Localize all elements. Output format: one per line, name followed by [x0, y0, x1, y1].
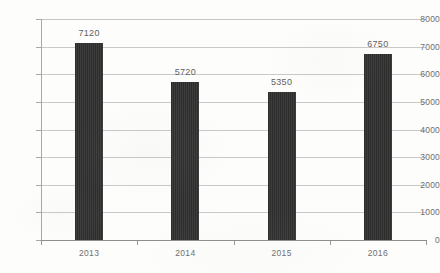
- y-axis-tick-label: 1000: [406, 208, 440, 217]
- x-axis-tick: [137, 241, 138, 245]
- y-axis-tick: [36, 157, 41, 158]
- bar-2014: [171, 82, 199, 240]
- bar-value-label-2015: 5350: [252, 78, 312, 87]
- y-axis-tick: [36, 19, 41, 20]
- gridline: [41, 19, 426, 20]
- bar-value-label-2014: 5720: [155, 68, 215, 77]
- x-axis-tick: [426, 241, 427, 245]
- y-axis-tick: [36, 102, 41, 103]
- y-axis-tick-label: 0: [406, 236, 440, 245]
- plot-area: [41, 19, 426, 240]
- x-axis-tick: [330, 241, 331, 245]
- y-axis-tick-label: 4000: [406, 126, 440, 135]
- x-axis-category-label-2015: 2015: [252, 249, 312, 258]
- y-axis-tick: [36, 47, 41, 48]
- y-axis-tick: [36, 185, 41, 186]
- bar-value-label-2016: 6750: [348, 40, 408, 49]
- bar-value-label-2013: 7120: [59, 29, 119, 38]
- bar-2016: [364, 54, 392, 240]
- y-axis-tick-label: 3000: [406, 153, 440, 162]
- y-axis-tick-label: 8000: [406, 15, 440, 24]
- y-axis-tick: [36, 130, 41, 131]
- x-axis-tick: [41, 241, 42, 245]
- y-axis-tick-label: 7000: [406, 43, 440, 52]
- x-axis-tick: [234, 241, 235, 245]
- y-axis-line: [41, 19, 42, 241]
- y-axis-tick-label: 6000: [406, 70, 440, 79]
- x-axis-category-label-2013: 2013: [59, 249, 119, 258]
- x-axis-category-label-2014: 2014: [155, 249, 215, 258]
- y-axis-tick: [36, 74, 41, 75]
- y-axis-tick-label: 5000: [406, 98, 440, 107]
- y-axis-tick-label: 2000: [406, 181, 440, 190]
- bar-2013: [75, 43, 103, 240]
- x-axis-category-label-2016: 2016: [348, 249, 408, 258]
- bar-2015: [268, 92, 296, 240]
- y-axis-tick: [36, 212, 41, 213]
- bar-chart-figure: 8000700060005000400030002000100007120201…: [0, 0, 440, 273]
